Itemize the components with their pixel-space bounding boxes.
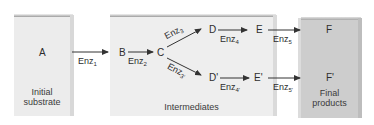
initial-substrate-caption-line2: substrate (14, 97, 70, 107)
node-c: C (157, 48, 164, 58)
node-f: F (326, 25, 332, 35)
node-f-prime: F' (326, 73, 334, 83)
enzyme-5-prime-label: Enz5' (273, 83, 293, 93)
intermediates-caption: Intermediates (110, 102, 273, 112)
enzyme-4-label: Enz4 (220, 35, 239, 45)
node-a: A (39, 48, 46, 58)
initial-substrate-caption-line1: Initial (14, 87, 70, 97)
final-products-caption-line2: products (301, 98, 358, 108)
enzyme-5-label: Enz5 (273, 35, 292, 45)
final-products-caption: Final products (301, 88, 358, 108)
node-e-prime: E' (254, 73, 263, 83)
initial-substrate-caption: Initial substrate (14, 87, 70, 107)
final-products-caption-line1: Final (301, 88, 358, 98)
node-e: E (256, 25, 263, 35)
node-d-prime: D' (209, 73, 218, 83)
node-d: D (209, 25, 216, 35)
enzyme-1-label: Enz1 (78, 57, 97, 67)
enzyme-4-prime-label: Enz4' (220, 83, 240, 93)
enzyme-2-label: Enz2 (128, 57, 147, 67)
node-b: B (119, 48, 126, 58)
